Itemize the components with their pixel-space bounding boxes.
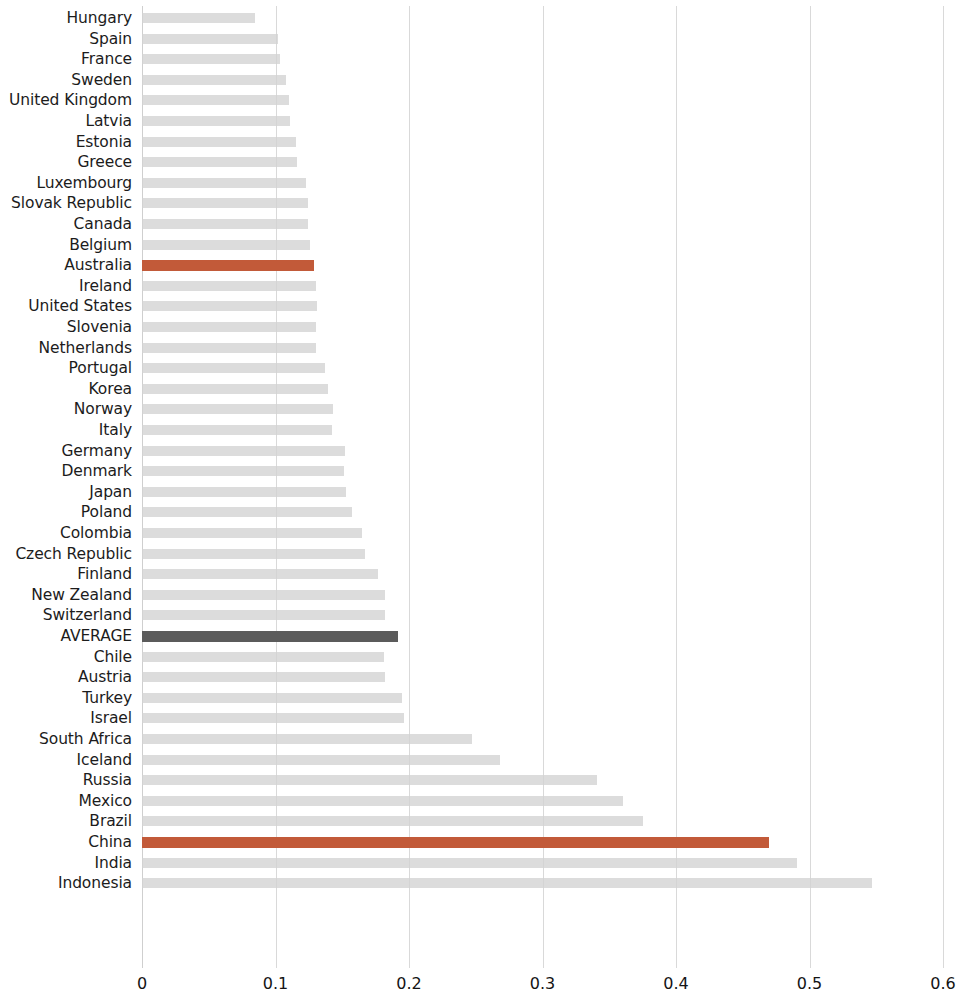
bar <box>142 384 328 394</box>
bar-row: Slovenia <box>0 317 956 338</box>
category-label: Chile <box>94 647 132 668</box>
x-tick-label: 0.6 <box>930 974 955 993</box>
bar-row: Brazil <box>0 811 956 832</box>
category-label: Greece <box>77 152 132 173</box>
bar-row: Korea <box>0 379 956 400</box>
bar <box>142 590 385 600</box>
bar-row: Australia <box>0 255 956 276</box>
bar-row: Czech Republic <box>0 544 956 565</box>
category-label: Australia <box>64 255 132 276</box>
category-label: Iceland <box>77 750 132 771</box>
bar <box>142 652 384 662</box>
bar-row: Netherlands <box>0 338 956 359</box>
category-label: Russia <box>83 770 132 791</box>
plot-area: HungarySpainFranceSwedenUnited KingdomLa… <box>0 0 956 968</box>
category-label: Poland <box>81 502 132 523</box>
bar <box>142 713 404 723</box>
category-label: Japan <box>89 482 132 503</box>
category-label: Finland <box>77 564 132 585</box>
bar-row: Estonia <box>0 132 956 153</box>
category-label: Spain <box>89 29 132 50</box>
category-label: Norway <box>74 399 132 420</box>
x-tick-label: 0.4 <box>663 974 688 993</box>
bar-row: Greece <box>0 152 956 173</box>
category-label: Luxembourg <box>36 173 132 194</box>
bar <box>142 837 769 848</box>
category-label: Portugal <box>69 358 132 379</box>
bar <box>142 95 289 105</box>
category-label: Hungary <box>67 8 133 29</box>
x-tick-label: 0 <box>137 974 147 993</box>
x-axis: 00.10.20.30.40.50.6 <box>0 968 956 1003</box>
bar-row: Turkey <box>0 688 956 709</box>
bar-row: Luxembourg <box>0 173 956 194</box>
bar-row: New Zealand <box>0 585 956 606</box>
bar <box>142 775 597 785</box>
category-label: Estonia <box>76 132 132 153</box>
bar <box>142 466 344 476</box>
category-label: Czech Republic <box>15 544 132 565</box>
bar-row: Italy <box>0 420 956 441</box>
x-tick-label: 0.3 <box>530 974 555 993</box>
bar <box>142 631 398 642</box>
bar-row: Switzerland <box>0 605 956 626</box>
bar-row: Russia <box>0 770 956 791</box>
category-label: France <box>81 49 132 70</box>
bar-row: Indonesia <box>0 873 956 894</box>
bar-row: Belgium <box>0 235 956 256</box>
bar <box>142 610 385 620</box>
bar-row: AVERAGE <box>0 626 956 647</box>
bar <box>142 137 296 147</box>
category-label: Latvia <box>85 111 132 132</box>
bar <box>142 343 316 353</box>
category-label: South Africa <box>39 729 132 750</box>
bar-row: Japan <box>0 482 956 503</box>
bar-row: Finland <box>0 564 956 585</box>
bar <box>142 404 333 414</box>
bar <box>142 54 280 64</box>
bar <box>142 796 623 806</box>
category-label: New Zealand <box>31 585 132 606</box>
bar <box>142 178 306 188</box>
bar <box>142 75 286 85</box>
category-label: Slovak Republic <box>11 193 132 214</box>
bar <box>142 13 255 23</box>
bar-row: Iceland <box>0 750 956 771</box>
category-label: United States <box>28 296 132 317</box>
bar <box>142 755 500 765</box>
bar <box>142 569 378 579</box>
bar <box>142 446 345 456</box>
bar <box>142 34 278 44</box>
category-label: Canada <box>74 214 132 235</box>
bar-row: Denmark <box>0 461 956 482</box>
bar-row: Chile <box>0 647 956 668</box>
bar <box>142 260 314 271</box>
bar <box>142 281 316 291</box>
bar <box>142 198 308 208</box>
bar <box>142 672 385 682</box>
category-label: Israel <box>90 708 132 729</box>
bar <box>142 240 310 250</box>
category-label: Colombia <box>60 523 132 544</box>
bar <box>142 487 346 497</box>
category-label: China <box>88 832 132 853</box>
category-label: Indonesia <box>58 873 132 894</box>
bar-row: India <box>0 853 956 874</box>
bar-chart: HungarySpainFranceSwedenUnited KingdomLa… <box>0 0 956 1003</box>
category-label: India <box>94 853 132 874</box>
bar <box>142 734 472 744</box>
category-label: Brazil <box>89 811 132 832</box>
bar <box>142 693 402 703</box>
category-label: Mexico <box>78 791 132 812</box>
bar-row: Portugal <box>0 358 956 379</box>
bar-row: Norway <box>0 399 956 420</box>
bar <box>142 116 290 126</box>
category-label: Germany <box>61 441 132 462</box>
category-label: Austria <box>78 667 132 688</box>
category-label: Denmark <box>61 461 132 482</box>
bar-row: United States <box>0 296 956 317</box>
category-label: AVERAGE <box>60 626 132 647</box>
category-label: Slovenia <box>67 317 132 338</box>
bar-row: Canada <box>0 214 956 235</box>
x-tick-label: 0.5 <box>797 974 822 993</box>
